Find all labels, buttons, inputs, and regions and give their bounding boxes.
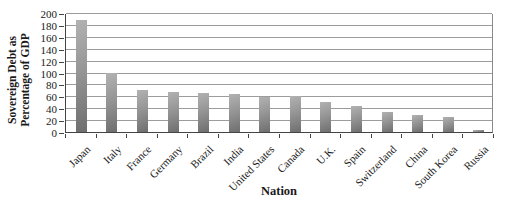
y-tick-60 — [59, 97, 64, 98]
x-tick-14 — [493, 134, 494, 138]
bar-canada — [290, 96, 301, 132]
y-tick-label-100: 100 — [23, 69, 57, 79]
bar-chart-screenshot: Sovereign Debt as Percentage of GDP Nati… — [0, 0, 510, 215]
x-tick-6 — [248, 134, 249, 138]
y-tick-label-0: 0 — [23, 128, 57, 138]
x-tick-7 — [279, 134, 280, 138]
y-tick-100 — [59, 74, 64, 75]
bar-france — [137, 90, 148, 132]
x-tick-0 — [65, 134, 66, 138]
x-tick-label-canada: Canada — [275, 143, 307, 175]
plot-area — [65, 14, 493, 133]
x-tick-10 — [371, 134, 372, 138]
bar-italy — [106, 73, 117, 132]
x-tick-label-u-k: U.K. — [314, 143, 338, 167]
y-tick-200 — [59, 14, 64, 15]
y-tick-label-40: 40 — [23, 104, 57, 114]
x-tick-11 — [401, 134, 402, 138]
x-tick-label-japan: Japan — [67, 143, 93, 169]
x-tick-12 — [432, 134, 433, 138]
y-tick-label-60: 60 — [23, 92, 57, 102]
gridline-80 — [66, 84, 492, 85]
x-tick-8 — [310, 134, 311, 138]
x-tick-1 — [96, 134, 97, 138]
y-tick-label-160: 160 — [23, 33, 57, 43]
bar-united-states — [259, 97, 270, 132]
y-tick-120 — [59, 62, 64, 63]
bar-japan — [76, 20, 87, 132]
x-tick-label-italy: Italy — [101, 143, 124, 166]
x-tick-4 — [187, 134, 188, 138]
bar-u-k — [320, 102, 331, 132]
y-tick-0 — [59, 133, 64, 134]
gridline-40 — [66, 108, 492, 109]
y-tick-label-80: 80 — [23, 80, 57, 90]
gridline-160 — [66, 37, 492, 38]
x-tick-13 — [462, 134, 463, 138]
gridline-140 — [66, 49, 492, 50]
x-tick-label-brazil: Brazil — [188, 143, 215, 170]
bar-south-korea — [443, 117, 454, 132]
x-tick-3 — [157, 134, 158, 138]
y-tick-20 — [59, 121, 64, 122]
bar-india — [229, 94, 240, 132]
y-tick-40 — [59, 109, 64, 110]
x-tick-5 — [218, 134, 219, 138]
x-tick-label-russia: Russia — [461, 143, 490, 172]
y-tick-label-20: 20 — [23, 116, 57, 126]
y-tick-180 — [59, 26, 64, 27]
x-tick-label-spain: Spain — [342, 143, 368, 169]
gridline-120 — [66, 61, 492, 62]
x-tick-2 — [126, 134, 127, 138]
x-axis-title: Nation — [65, 184, 493, 199]
gridline-60 — [66, 96, 492, 97]
y-tick-label-200: 200 — [23, 9, 57, 19]
bar-russia — [473, 130, 484, 132]
x-tick-label-germany: Germany — [147, 143, 184, 180]
y-tick-160 — [59, 38, 64, 39]
bar-germany — [168, 92, 179, 132]
x-tick-9 — [340, 134, 341, 138]
bar-brazil — [198, 93, 209, 132]
y-axis-title-line1: Sovereign Debt as — [6, 15, 19, 145]
bar-spain — [351, 106, 362, 132]
y-tick-label-120: 120 — [23, 57, 57, 67]
y-tick-140 — [59, 50, 64, 51]
y-tick-label-140: 140 — [23, 45, 57, 55]
bar-switzerland — [382, 112, 393, 132]
gridline-100 — [66, 73, 492, 74]
gridline-20 — [66, 120, 492, 121]
gridline-180 — [66, 25, 492, 26]
bar-china — [412, 115, 423, 132]
y-tick-80 — [59, 85, 64, 86]
x-tick-label-india: India — [221, 143, 245, 167]
gridline-200 — [66, 13, 492, 14]
x-tick-label-china: China — [402, 143, 429, 170]
y-tick-label-180: 180 — [23, 21, 57, 31]
